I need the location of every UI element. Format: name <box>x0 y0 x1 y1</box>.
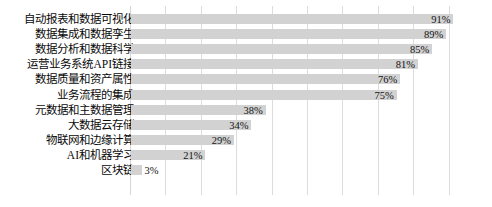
category-label: 自动报表和数据可视化 <box>24 12 134 27</box>
category-label: 数据质量和资产属性 <box>35 72 134 87</box>
bar-row: 自动报表和数据可视化91% <box>0 12 492 27</box>
bar-value-label: 81% <box>396 57 415 72</box>
bar-row: 元数据和主数据管理38% <box>0 103 492 118</box>
bar-rows: 自动报表和数据可视化91%数据集成和数据孪生89%数据分析和数据科学85%运营业… <box>0 0 492 207</box>
bar <box>131 59 418 69</box>
bar <box>131 74 400 84</box>
bar-value-label: 85% <box>410 42 429 57</box>
bar-value-label: 3% <box>145 163 159 178</box>
bar-value-label: 21% <box>183 148 202 163</box>
category-label: 元数据和主数据管理 <box>35 103 134 118</box>
bar-row: 数据集成和数据孪生89% <box>0 27 492 42</box>
bar-row: 区块链3% <box>0 163 492 178</box>
bar-row: 运营业务系统API链接81% <box>0 57 492 72</box>
bar-row: 数据分析和数据科学85% <box>0 42 492 57</box>
bar <box>131 165 142 175</box>
category-label: 运营业务系统API链接 <box>27 57 134 72</box>
bar-row: 物联网和边缘计算29% <box>0 133 492 148</box>
category-label: 数据分析和数据科学 <box>35 42 134 57</box>
bar-row: 大数据云存储34% <box>0 118 492 133</box>
bar <box>131 29 446 39</box>
bar-value-label: 34% <box>229 118 248 133</box>
bar-row: AI和机器学习21% <box>0 148 492 163</box>
category-label: 业务流程的集成 <box>57 88 134 103</box>
bar-value-label: 29% <box>212 133 231 148</box>
bar-value-label: 89% <box>424 27 443 42</box>
category-label: 大数据云存储 <box>68 118 134 133</box>
bar-chart: 自动报表和数据可视化91%数据集成和数据孪生89%数据分析和数据科学85%运营业… <box>0 0 492 207</box>
bar <box>131 14 453 24</box>
bar-value-label: 76% <box>378 72 397 87</box>
category-label: 区块链 <box>101 163 134 178</box>
bar-row: 业务流程的集成75% <box>0 88 492 103</box>
bar-value-label: 75% <box>375 88 394 103</box>
bar <box>131 90 397 100</box>
category-label: AI和机器学习 <box>67 148 134 163</box>
bar-row: 数据质量和资产属性76% <box>0 72 492 87</box>
category-label: 物联网和边缘计算 <box>46 133 134 148</box>
category-label: 数据集成和数据孪生 <box>35 27 134 42</box>
bar-value-label: 91% <box>431 12 450 27</box>
bar <box>131 44 432 54</box>
bar-value-label: 38% <box>244 103 263 118</box>
